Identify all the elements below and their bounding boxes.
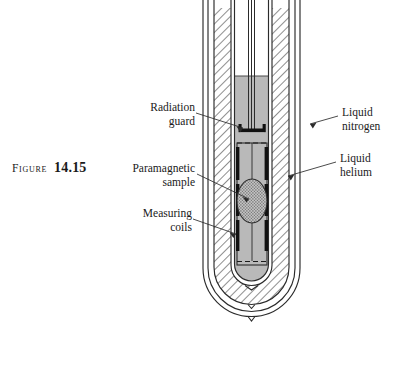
callout-paramagnetic-sample-line2: sample — [78, 176, 195, 190]
figure-caption-word: Figure — [12, 162, 47, 174]
callout-measuring-coils-line1: Measuring — [85, 207, 192, 221]
callout-liquid-helium-line2: helium — [340, 166, 398, 180]
callout-liquid-nitrogen: Liquid nitrogen — [342, 106, 402, 133]
paramagnetic-sample-ellipse — [237, 179, 267, 223]
callout-liquid-nitrogen-line2: nitrogen — [342, 120, 402, 134]
callout-liquid-helium: Liquid helium — [340, 152, 398, 179]
callout-measuring-coils: Measuring coils — [85, 207, 192, 234]
callout-radiation-guard-line1: Radiation — [90, 101, 195, 115]
callout-paramagnetic-sample: Paramagnetic sample — [78, 162, 195, 189]
leader-liquid-nitrogen — [310, 116, 338, 124]
cryostat-cross-section-diagram — [0, 0, 403, 368]
figure-container: Figure14.15 Radiation guard Paramagnetic… — [0, 0, 403, 368]
callout-measuring-coils-line2: coils — [85, 221, 192, 235]
callout-radiation-guard: Radiation guard — [90, 101, 195, 128]
callout-liquid-helium-line1: Liquid — [340, 152, 398, 166]
callout-liquid-nitrogen-line1: Liquid — [342, 106, 402, 120]
figure-caption: Figure14.15 — [12, 160, 87, 176]
callout-paramagnetic-sample-line1: Paramagnetic — [78, 162, 195, 176]
callout-radiation-guard-line2: guard — [90, 115, 195, 129]
